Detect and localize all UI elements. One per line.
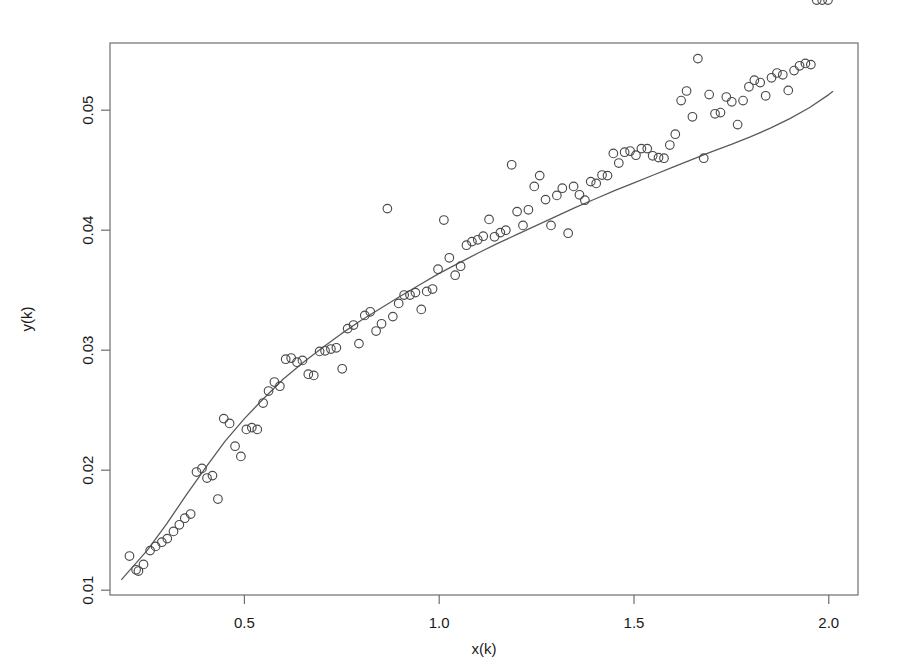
plot-background: [0, 0, 907, 669]
y-tick-label: 0.04: [80, 216, 97, 245]
y-tick-label: 0.05: [80, 96, 97, 125]
y-tick-label: 0.01: [80, 576, 97, 605]
y-tick-label: 0.03: [80, 336, 97, 365]
x-tick-label: 0.5: [234, 614, 255, 631]
figure-container: 0.51.01.52.0 0.010.020.030.040.05 x(k) y…: [0, 0, 907, 669]
x-axis-label: x(k): [472, 640, 497, 657]
y-tick-label: 0.02: [80, 456, 97, 485]
x-tick-label: 1.0: [429, 614, 450, 631]
x-tick-label: 2.0: [818, 614, 839, 631]
y-axis-label: y(k): [18, 307, 35, 332]
scatter-plot: 0.51.01.52.0 0.010.020.030.040.05 x(k) y…: [0, 0, 907, 669]
x-tick-label: 1.5: [624, 614, 645, 631]
